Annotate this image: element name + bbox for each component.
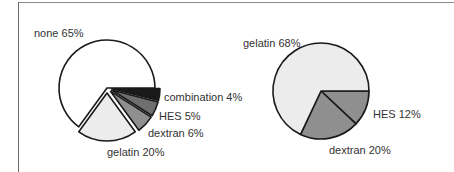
pie-charts: none 65% combination 4% HES 5% dextran 6… — [0, 0, 454, 172]
label-hes: HES 5% — [159, 110, 201, 122]
pie-chart-left — [59, 40, 160, 141]
label-combination: combination 4% — [164, 91, 242, 103]
label-hes-right: HES 12% — [373, 108, 421, 120]
label-gelatin-right: gelatin 68% — [243, 37, 301, 49]
label-gelatin: gelatin 20% — [107, 146, 165, 158]
pie-chart-right — [273, 43, 369, 139]
label-dextran: dextran 6% — [148, 127, 204, 139]
label-none: none 65% — [34, 27, 84, 39]
label-dextran-right: dextran 20% — [329, 144, 391, 156]
